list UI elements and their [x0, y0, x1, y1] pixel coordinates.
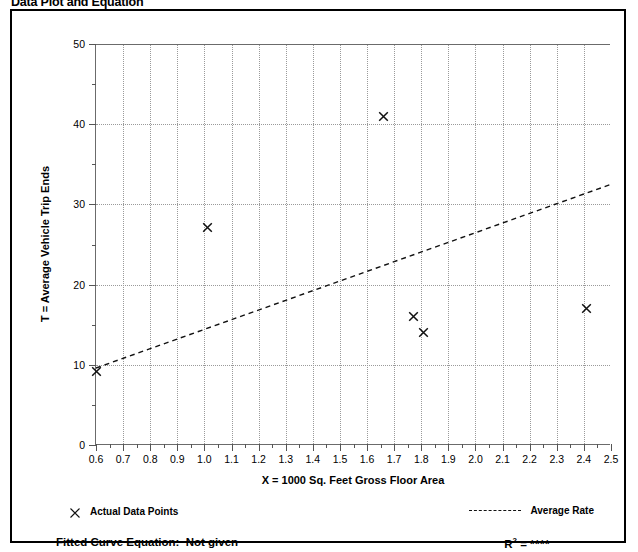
x-axis-tick-label: 0.6 [89, 453, 104, 465]
y-axis-title: T = Average Vehicle Trip Ends [39, 166, 51, 322]
x-axis-tick [530, 444, 531, 451]
legend-label-actual-data-points: Actual Data Points [90, 506, 178, 517]
legend-average-rate: Average Rate [469, 505, 594, 516]
x-axis-title: X = 1000 Sq. Feet Gross Floor Area [262, 474, 445, 486]
x-axis-tick [96, 444, 97, 451]
x-axis-tick [204, 444, 205, 451]
fitted-curve-equation: Fitted Curve Equation: Not given [56, 536, 238, 548]
x-axis-tick-label: 0.8 [143, 453, 158, 465]
y-axis-tick-label: 30 [73, 198, 85, 210]
legend-actual-data-points: Actual Data Points [69, 505, 178, 517]
fitted-curve-label: Fitted Curve Equation: [56, 536, 179, 548]
fitted-curve-value: Not given [186, 536, 238, 548]
x-axis-tick-label: 2.1 [495, 453, 510, 465]
x-axis-tick [340, 444, 341, 451]
y-axis-tick-label: 10 [73, 359, 85, 371]
x-axis-tick [259, 444, 260, 451]
x-axis-tick-label: 2.0 [468, 453, 483, 465]
page-title: Data Plot and Equation [11, 0, 143, 9]
y-axis-tick [89, 285, 96, 286]
x-axis-tick [475, 444, 476, 451]
r-squared-label: R [504, 538, 512, 550]
x-axis-tick [394, 444, 395, 451]
x-axis-tick [584, 444, 585, 451]
y-axis-tick [89, 44, 96, 45]
x-axis-tick [150, 444, 151, 451]
x-axis-tick [232, 444, 233, 451]
x-axis-tick-label: 2.3 [549, 453, 564, 465]
r-squared-value: **** [530, 538, 550, 550]
x-axis-tick-label: 1.7 [387, 453, 402, 465]
x-axis-tick-label: 1.5 [333, 453, 348, 465]
y-axis-tick-label: 50 [73, 38, 85, 50]
trend-line [96, 44, 611, 445]
x-axis-tick [367, 444, 368, 451]
x-axis-tick [557, 444, 558, 451]
x-axis-tick-label: 1.2 [251, 453, 266, 465]
x-axis-tick [313, 444, 314, 451]
x-axis-tick [177, 444, 178, 451]
x-axis-tick [448, 444, 449, 451]
x-axis-tick-label: 2.2 [522, 453, 537, 465]
cross-marker-icon [69, 505, 81, 517]
r-squared-exponent: 2 [513, 536, 517, 545]
legend-label-average-rate: Average Rate [530, 505, 594, 516]
y-axis-tick [89, 204, 96, 205]
y-axis-tick [89, 445, 96, 446]
y-axis-tick-label: 0 [79, 439, 85, 451]
dashed-line-icon [469, 510, 521, 511]
x-axis-tick-label: 1.9 [441, 453, 456, 465]
x-axis-tick [503, 444, 504, 451]
y-axis-tick [89, 124, 96, 125]
r-squared-equals: = [520, 538, 527, 550]
x-axis-tick [123, 444, 124, 451]
chart-panel: T = Average Vehicle Trip Ends 0102030405… [10, 9, 626, 543]
y-axis-tick-label: 20 [73, 279, 85, 291]
x-axis-tick-label: 1.3 [278, 453, 293, 465]
x-axis-tick-label: 2.4 [577, 453, 592, 465]
y-axis-tick-label: 40 [73, 118, 85, 130]
x-axis-tick-label: 1.8 [414, 453, 429, 465]
x-axis-tick [286, 444, 287, 451]
x-axis-tick-label: 1.0 [197, 453, 212, 465]
r-squared: R2 = **** [504, 536, 550, 550]
x-axis-tick-label: 1.6 [360, 453, 375, 465]
x-axis-tick-label: 0.9 [170, 453, 185, 465]
x-axis-tick [611, 444, 612, 451]
x-axis-tick-label: 0.7 [116, 453, 131, 465]
x-axis-tick [421, 444, 422, 451]
plot-area: 010203040500.60.70.80.91.01.11.21.31.41.… [95, 44, 610, 445]
x-axis-tick-label: 2.5 [604, 453, 619, 465]
x-axis-tick-label: 1.1 [224, 453, 239, 465]
x-axis-tick-label: 1.4 [306, 453, 321, 465]
